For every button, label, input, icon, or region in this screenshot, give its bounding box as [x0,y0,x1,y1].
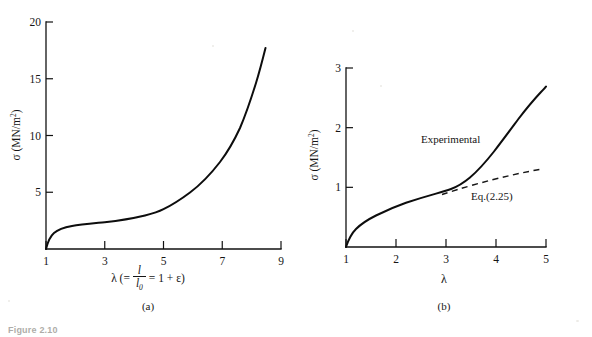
scan-speck [576,320,579,322]
scan-speck [352,30,354,32]
scan-speck [380,85,382,87]
panel-a-y-title-close: ) [10,109,23,113]
panel-b-xlabel-3: 3 [443,253,449,265]
scan-speck [212,45,214,47]
figure-number-label: Figure 2.10 [8,325,58,335]
panel-b-ylabel-3: 3 [335,62,341,74]
panel-a-x-title-fraction: ll0 [133,264,146,293]
panel-b-y-title-close: ) [308,129,321,133]
panel-b-y-title-main: σ (MN/m [308,137,321,181]
figure-root: 20 15 10 5 1 3 5 7 9 σ (MN/m2) λ (=ll0= … [0,0,592,337]
panel-a-svg: 20 15 10 5 1 3 5 7 9 σ (MN/m2) [0,0,296,300]
panel-a-x-title-lambda: λ (= [111,272,130,284]
panel-a-y-title-main: σ (MN/m [10,117,23,161]
panel-a-ylabel-20: 20 [30,16,42,28]
panel-a-ylabel-15: 15 [30,73,42,85]
panel-a-ylabel-10: 10 [30,130,42,142]
panel-b-ylabel-2: 2 [335,122,341,134]
panel-b-xlabel-5: 5 [543,253,549,265]
panel-a-caption: (a) [0,300,296,312]
panel-a-ylabel-5: 5 [35,186,41,198]
panel-b-svg: 3 2 1 1 2 3 4 5 σ (MN/m2) Experimental E… [296,0,592,300]
panel-a-curve [46,48,266,249]
chart-panel-a: 20 15 10 5 1 3 5 7 9 σ (MN/m2) λ (=ll0= … [0,0,296,337]
panel-a-fraction-numerator: l [133,264,146,276]
panel-b-y-axis-title: σ (MN/m2) [307,129,321,180]
scan-speck [8,300,10,302]
svg-text:σ (MN/m2): σ (MN/m2) [9,109,23,160]
panel-b-caption: (b) [296,300,592,312]
panel-b-xlabel-1: 1 [343,253,349,265]
panel-b-xlabel-4: 4 [493,253,499,265]
panel-a-den-sub: 0 [139,283,143,292]
panel-b-curve-experimental [346,87,546,248]
svg-text:σ (MN/m2): σ (MN/m2) [307,129,321,180]
chart-panel-b: 3 2 1 1 2 3 4 5 σ (MN/m2) Experimental E… [296,0,592,337]
panel-b-x-axis-title: λ [296,272,592,287]
panel-a-y-axis-title: σ (MN/m2) [9,109,23,160]
panel-b-annotation-experimental: Experimental [421,133,480,145]
panel-b-annotation-equation: Eq.(2.25) [471,190,513,203]
panel-a-x-axis-title: λ (=ll0= 1 + ε) [0,265,296,294]
panel-a-x-title-tail: = 1 + ε) [149,272,185,284]
panel-b-ylabel-1: 1 [335,181,341,193]
panel-a-fraction-denominator: l0 [133,277,146,293]
panel-b-xlabel-2: 2 [393,253,399,265]
